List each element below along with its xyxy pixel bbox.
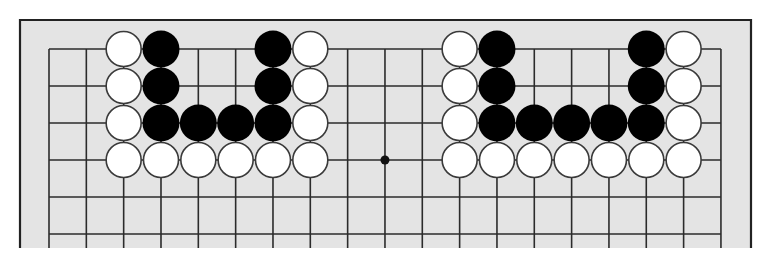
white-stone [517,143,552,178]
white-stone [442,69,477,104]
black-stone [516,105,553,142]
black-stone [478,105,515,142]
white-stone [479,143,514,178]
white-stone [666,106,701,141]
black-stone [628,68,665,105]
white-stone [293,69,328,104]
white-stone [554,143,589,178]
white-stone [218,143,253,178]
white-stone [629,143,664,178]
white-stone [591,143,626,178]
black-stone [254,105,291,142]
black-stone [254,68,291,105]
white-stone [181,143,216,178]
star-points [380,156,389,165]
white-stone [666,143,701,178]
black-stone [254,31,291,68]
black-stone [590,105,627,142]
black-stone [180,105,217,142]
white-stone [293,32,328,67]
white-stone [442,106,477,141]
white-stone [293,106,328,141]
white-stone [106,143,141,178]
white-stone [442,143,477,178]
star-point-icon [380,156,389,165]
white-stone [106,32,141,67]
black-stone [217,105,254,142]
black-stone [478,31,515,68]
white-stone [143,143,178,178]
black-stone [142,68,179,105]
white-stone [255,143,290,178]
white-stone [293,143,328,178]
black-stone [628,31,665,68]
black-stone [628,105,665,142]
white-stone [666,32,701,67]
black-stone [478,68,515,105]
white-stone [666,69,701,104]
black-stone [142,31,179,68]
black-stone [553,105,590,142]
white-stone [106,106,141,141]
white-stone [442,32,477,67]
white-stone [106,69,141,104]
black-stone [142,105,179,142]
go-board-diagram [0,0,769,260]
